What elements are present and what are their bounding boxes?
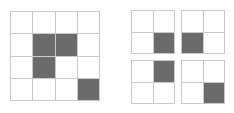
- grid-cell-filled: [78, 79, 99, 100]
- grid-cell-empty: [11, 79, 32, 100]
- grid-cell-empty: [204, 61, 225, 82]
- grid-cell-empty: [78, 57, 99, 78]
- grid-cell-empty: [33, 79, 54, 100]
- grid-cell-empty: [11, 34, 32, 55]
- grid-cell-empty: [204, 33, 225, 54]
- grid-cell-empty: [11, 57, 32, 78]
- grid-cell-empty: [154, 83, 175, 104]
- small-2x2-grid-bottom-left: [131, 60, 175, 104]
- grid-cell-empty: [56, 79, 77, 100]
- small-2x2-grid-bottom-right: [181, 60, 225, 104]
- grid-cell-filled: [56, 34, 77, 55]
- grid-cell-empty: [11, 12, 32, 33]
- large-4x4-grid: [10, 11, 100, 101]
- grid-cell-empty: [78, 12, 99, 33]
- grid-cell-empty: [182, 11, 203, 32]
- grid-cell-empty: [33, 12, 54, 33]
- small-2x2-grid-top-right: [181, 10, 225, 54]
- grid-cell-empty: [182, 61, 203, 82]
- grid-cell-empty: [132, 83, 153, 104]
- grid-cell-filled: [33, 57, 54, 78]
- grid-cell-empty: [78, 34, 99, 55]
- grid-cell-filled: [204, 83, 225, 104]
- grid-cell-empty: [154, 11, 175, 32]
- small-grid-cluster: [131, 10, 225, 104]
- grid-cell-empty: [56, 12, 77, 33]
- grid-cell-empty: [132, 33, 153, 54]
- grid-cell-empty: [132, 11, 153, 32]
- grid-cell-empty: [56, 57, 77, 78]
- grid-cell-empty: [132, 61, 153, 82]
- small-2x2-grid-top-left: [131, 10, 175, 54]
- grid-cell-filled: [33, 34, 54, 55]
- grid-cell-empty: [182, 83, 203, 104]
- grid-figure: [0, 0, 234, 113]
- grid-cell-filled: [154, 33, 175, 54]
- grid-cell-empty: [204, 11, 225, 32]
- grid-cell-filled: [154, 61, 175, 82]
- grid-cell-filled: [182, 33, 203, 54]
